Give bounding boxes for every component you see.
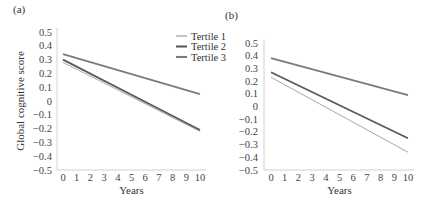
x-tick-label: 10	[195, 172, 206, 183]
x-tick-label: 5	[337, 172, 342, 183]
y-tick-label: −0.3	[33, 137, 52, 148]
y-tick-label: 0.2	[39, 68, 52, 79]
y-tick-label: 0	[253, 101, 258, 112]
chart-panel-b: (b)0.50.40.30.20.10−0.1−0.2−0.3−0.4−0.50…	[225, 9, 414, 196]
figure: (a)0.50.40.30.20.10−0.1−0.2−0.3−0.4−0.50…	[0, 0, 437, 204]
y-tick-label: 0.1	[39, 82, 52, 93]
y-axis-label: Global cognitive score	[14, 51, 26, 151]
x-tick-label: 2	[296, 172, 301, 183]
x-tick-label: 7	[156, 172, 161, 183]
x-tick-label: 0	[268, 172, 273, 183]
x-tick-label: 10	[403, 172, 414, 183]
series-line-tertile-3	[63, 54, 200, 94]
y-tick-label: 0.1	[245, 88, 258, 99]
x-tick-label: 4	[115, 172, 121, 183]
x-tick-label: 5	[129, 172, 134, 183]
y-tick-label: 0.3	[245, 63, 258, 74]
y-tick-label: −0.1	[33, 109, 52, 120]
x-tick-label: 3	[309, 172, 314, 183]
y-tick-label: 0.5	[245, 38, 258, 49]
x-axis-label: Years	[327, 184, 352, 196]
series-line-tertile-3	[271, 58, 408, 95]
x-tick-label: 8	[170, 172, 175, 183]
series-line-tertile-2	[63, 60, 200, 130]
x-tick-label: 6	[143, 172, 148, 183]
panel-label: (a)	[13, 3, 26, 16]
y-tick-label: −0.1	[239, 114, 258, 125]
legend: Tertile 1Tertile 2Tertile 3	[176, 31, 226, 63]
x-tick-label: 4	[323, 172, 329, 183]
x-tick-label: 3	[101, 172, 106, 183]
y-tick-label: 0.4	[39, 40, 53, 51]
y-tick-label: 0.3	[39, 54, 52, 65]
x-axis-label: Years	[119, 184, 144, 196]
x-tick-label: 1	[282, 172, 287, 183]
series-line-tertile-2	[271, 72, 408, 138]
y-tick-label: −0.2	[239, 126, 258, 137]
y-tick-label: −0.4	[239, 152, 259, 163]
x-tick-label: 8	[378, 172, 383, 183]
legend-label: Tertile 1	[191, 31, 226, 42]
legend-label: Tertile 3	[191, 52, 226, 63]
y-tick-label: 0	[47, 96, 52, 107]
x-tick-label: 9	[392, 172, 397, 183]
x-tick-label: 6	[351, 172, 356, 183]
chart-panel-a: (a)0.50.40.30.20.10−0.1−0.2−0.3−0.4−0.50…	[13, 3, 206, 196]
x-tick-label: 2	[88, 172, 93, 183]
y-tick-label: −0.5	[239, 165, 258, 176]
y-tick-label: −0.5	[33, 165, 52, 176]
x-tick-label: 9	[184, 172, 189, 183]
x-tick-label: 1	[74, 172, 79, 183]
y-tick-label: 0.4	[245, 50, 259, 61]
y-tick-label: −0.2	[33, 123, 52, 134]
series-line-tertile-1	[63, 62, 200, 131]
y-tick-label: 0.2	[245, 76, 258, 87]
x-tick-label: 0	[60, 172, 65, 183]
y-tick-label: −0.4	[33, 151, 53, 162]
y-tick-label: 0.5	[39, 27, 52, 38]
x-tick-label: 7	[364, 172, 369, 183]
series-line-tertile-1	[271, 77, 408, 152]
panel-label: (b)	[225, 9, 238, 22]
legend-label: Tertile 2	[191, 41, 226, 52]
y-tick-label: −0.3	[239, 139, 258, 150]
